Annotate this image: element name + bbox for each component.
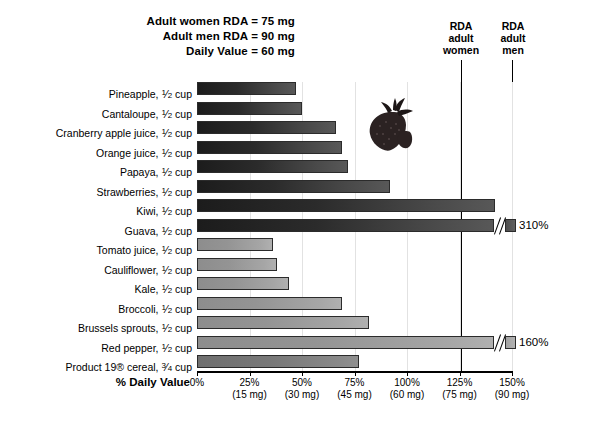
bar-product-19-cereal[interactable] <box>197 355 359 368</box>
axis-tick-label-50%: 50%(30 mg) <box>272 377 332 400</box>
bar-value-label: 160% <box>519 336 548 349</box>
axis-tick-label-150%: 150%(90 mg) <box>482 377 542 400</box>
tick-milligrams: (15 mg) <box>220 389 280 401</box>
tick-milligrams: (90 mg) <box>482 389 542 401</box>
bar-cauliflower[interactable] <box>197 258 277 271</box>
category-label: Cantaloupe, 1⁄2 cup <box>2 106 192 122</box>
rda-note-block: Adult women RDA = 75 mg Adult men RDA = … <box>0 14 295 59</box>
tick-percent: 100% <box>377 377 437 389</box>
axis-tick-150% <box>512 371 513 376</box>
tick-milligrams: (75 mg) <box>430 389 490 401</box>
axis-tick-125% <box>460 371 461 376</box>
category-label: Broccoli, 1⁄2 cup <box>2 301 192 317</box>
x-axis-title: % Daily Value <box>0 376 190 388</box>
bar-value-label: 310% <box>519 219 548 232</box>
category-label: Cauliflower, 1⁄2 cup <box>2 262 192 278</box>
axis-tick-0% <box>197 371 198 376</box>
reference-line-rda-women <box>461 60 462 372</box>
axis-tick-label-100%: 100%(60 mg) <box>377 377 437 400</box>
axis-tick-50% <box>302 371 303 376</box>
bar-truncated-cap <box>505 336 516 349</box>
bar-orange-juice[interactable] <box>197 141 342 154</box>
bar-guava[interactable] <box>197 219 494 232</box>
bar-kiwi[interactable] <box>197 199 495 212</box>
tick-percent: 75% <box>325 377 385 389</box>
tick-percent: 125% <box>430 377 490 389</box>
strawberry-illustration <box>364 98 420 160</box>
category-label: Product 19® cereal, 3⁄4 cup <box>2 359 192 375</box>
axis-tick-25% <box>250 371 251 376</box>
tick-milligrams: (60 mg) <box>377 389 437 401</box>
rda-men-line-3: men <box>478 44 548 56</box>
category-label: Guava, 1⁄2 cup <box>2 223 192 239</box>
rda-note-line-2: Adult men RDA = 90 mg <box>0 29 295 44</box>
category-label: Cranberry apple juice, 1⁄2 cup <box>2 125 192 141</box>
axis-tick-75% <box>355 371 356 376</box>
category-label: Red pepper, 1⁄2 cup <box>2 340 192 356</box>
category-label: Orange juice, 1⁄2 cup <box>2 145 192 161</box>
category-label: Strawberries, 1⁄2 cup <box>2 184 192 200</box>
tick-percent: 150% <box>482 377 542 389</box>
bar-brussels-sprouts[interactable] <box>197 316 369 329</box>
category-label: Kiwi, 1⁄2 cup <box>2 203 192 219</box>
tick-percent: 25% <box>220 377 280 389</box>
axis-tick-100% <box>407 371 408 376</box>
tick-percent: 50% <box>272 377 332 389</box>
vitamin-c-bar-chart: Adult women RDA = 75 mg Adult men RDA = … <box>0 0 591 423</box>
category-label: Kale, 1⁄2 cup <box>2 281 192 297</box>
tick-milligrams: (45 mg) <box>325 389 385 401</box>
category-label: Papaya, 1⁄2 cup <box>2 164 192 180</box>
bar-tomato-juice[interactable] <box>197 238 273 251</box>
axis-tick-label-25%: 25%(15 mg) <box>220 377 280 400</box>
bar-cantaloupe[interactable] <box>197 102 302 115</box>
rda-note-line-1: Adult women RDA = 75 mg <box>0 14 295 29</box>
bar-cranberry-apple-juice[interactable] <box>197 121 336 134</box>
category-label: Tomato juice, 1⁄2 cup <box>2 242 192 258</box>
category-label-column: Pineapple, 1⁄2 cupCantaloupe, 1⁄2 cupCra… <box>0 82 192 377</box>
bar-strawberries[interactable] <box>197 180 390 193</box>
category-label: Pineapple, 1⁄2 cup <box>2 86 192 102</box>
rda-men-line-1: RDA <box>478 20 548 32</box>
tick-milligrams: (30 mg) <box>272 389 332 401</box>
bar-broccoli[interactable] <box>197 297 342 310</box>
axis-tick-label-125%: 125%(75 mg) <box>430 377 490 400</box>
category-label: Brussels sprouts, 1⁄2 cup <box>2 320 192 336</box>
bar-red-pepper[interactable] <box>197 336 494 349</box>
plot-area: 310%160% <box>197 82 512 372</box>
rda-men-line-2: adult <box>478 32 548 44</box>
bar-kale[interactable] <box>197 277 289 290</box>
rda-note-line-3: Daily Value = 60 mg <box>0 44 295 59</box>
axis-tick-label-75%: 75%(45 mg) <box>325 377 385 400</box>
bar-pineapple[interactable] <box>197 82 296 95</box>
rda-adult-men-header: RDA adult men <box>478 20 548 56</box>
bar-truncated-cap <box>505 219 516 232</box>
bar-papaya[interactable] <box>197 160 348 173</box>
